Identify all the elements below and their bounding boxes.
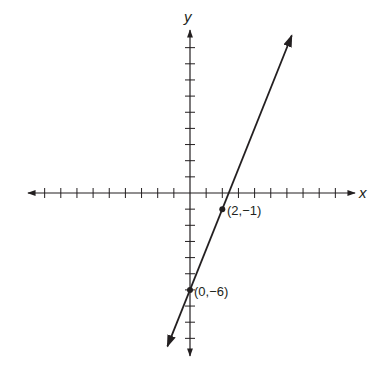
- x-axis-label: x: [358, 184, 367, 201]
- data-point: [219, 206, 225, 212]
- coordinate-plane: y x (2,−1) (0,−6): [0, 0, 390, 385]
- y-axis-label: y: [183, 8, 193, 25]
- line-series: [167, 36, 291, 347]
- point-label-2-neg1: (2,−1): [227, 203, 261, 218]
- data-point: [187, 287, 193, 293]
- data-line: [167, 36, 291, 347]
- point-label-0-neg6: (0,−6): [194, 284, 228, 299]
